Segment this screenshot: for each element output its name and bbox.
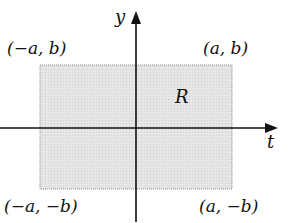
y-axis-arrow-icon: [131, 11, 141, 24]
corner-label-top-right: (a, b): [203, 38, 248, 58]
diagram-canvas: [0, 0, 293, 223]
y-axis-label: y: [115, 6, 125, 27]
corner-label-bottom-left: (−a, −b): [4, 196, 78, 216]
corner-label-bottom-right: (a, −b): [199, 196, 258, 216]
region-label: R: [175, 86, 189, 107]
corner-label-top-left: (−a, b): [7, 38, 66, 58]
t-axis-label: t: [267, 131, 274, 152]
